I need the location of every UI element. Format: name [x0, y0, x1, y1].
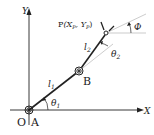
arm-diagram: Y X O A B P(XP, YP) l1 l2 θ1 θ2 Φ	[0, 0, 154, 135]
x-axis-arrow	[137, 108, 144, 113]
link-l1-label: l1	[48, 79, 55, 90]
joint-b-label: B	[83, 75, 91, 88]
y-axis-label: Y	[22, 6, 29, 16]
theta1-label: θ1	[51, 98, 60, 109]
x-axis-label: X	[143, 106, 151, 116]
link-l2	[79, 35, 105, 71]
theta2-label: θ2	[111, 49, 120, 60]
origin-label: O	[17, 116, 26, 129]
joint-b-icon	[75, 67, 83, 75]
phi-label: Φ	[134, 22, 141, 32]
end-effector-label: P(XP, YP)	[58, 20, 92, 30]
joint-a-label: A	[30, 116, 40, 129]
link-l2-label: l2	[84, 42, 91, 53]
